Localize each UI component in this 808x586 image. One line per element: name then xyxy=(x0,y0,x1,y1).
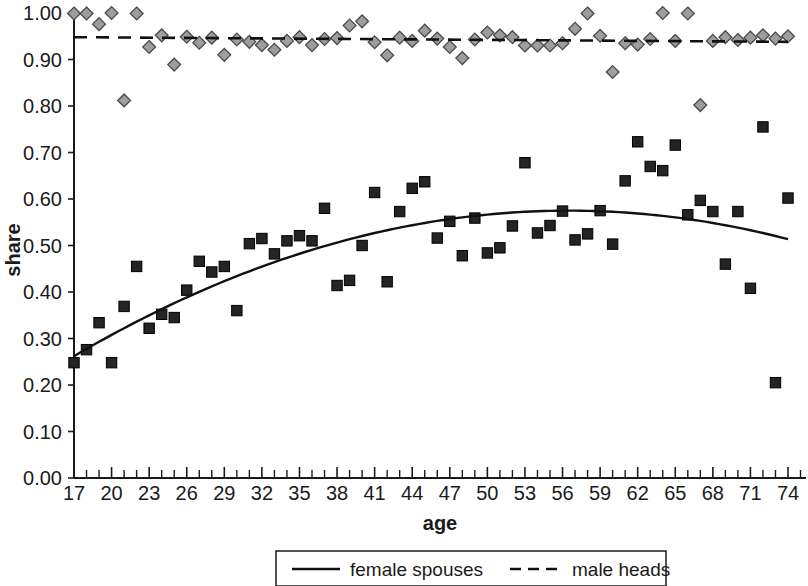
data-point-square xyxy=(620,176,630,186)
data-point-diamond xyxy=(481,26,494,39)
data-point-square xyxy=(269,249,279,259)
data-point-square xyxy=(144,323,154,333)
y-tick-label: 0.80 xyxy=(23,95,62,117)
data-point-square xyxy=(632,137,642,147)
female-spouses-fit-curve xyxy=(74,211,788,357)
data-point-square xyxy=(745,283,755,293)
data-point-square xyxy=(131,261,141,271)
x-tick-label: 35 xyxy=(288,482,310,504)
x-axis-ticks xyxy=(74,467,801,478)
y-tick-label: 0.50 xyxy=(23,235,62,257)
data-point-square xyxy=(282,236,292,246)
data-point-square xyxy=(495,243,505,253)
x-tick-label: 47 xyxy=(439,482,461,504)
male-heads-data-points xyxy=(68,7,795,112)
data-point-diamond xyxy=(143,41,156,54)
data-point-square xyxy=(658,165,668,175)
data-point-square xyxy=(182,285,192,295)
legend-label-male-heads: male heads xyxy=(572,559,670,580)
scatter-plot-svg: 0.000.100.200.300.400.500.600.700.800.90… xyxy=(0,0,808,586)
data-point-diamond xyxy=(356,15,369,28)
y-tick-label: 0.90 xyxy=(23,49,62,71)
data-point-diamond xyxy=(381,49,394,62)
data-point-diamond xyxy=(306,39,319,52)
data-point-diamond xyxy=(118,94,131,107)
data-point-square xyxy=(69,357,79,367)
data-point-square xyxy=(219,261,229,271)
data-point-diamond xyxy=(418,24,431,37)
data-point-diamond xyxy=(255,39,268,52)
data-point-diamond xyxy=(619,37,632,50)
y-tick-label: 0.10 xyxy=(23,421,62,443)
data-point-square xyxy=(244,238,254,248)
data-point-diamond xyxy=(218,48,231,61)
data-point-diamond xyxy=(155,29,168,42)
x-tick-label: 59 xyxy=(589,482,611,504)
data-point-square xyxy=(394,206,404,216)
y-tick-label: 0.40 xyxy=(23,281,62,303)
data-point-diamond xyxy=(456,52,469,65)
data-point-square xyxy=(344,275,354,285)
y-axis-title: share xyxy=(2,223,24,276)
data-point-square xyxy=(695,195,705,205)
x-axis-tick-labels: 1720232629323538414447505356596265687174 xyxy=(63,482,799,504)
data-point-diamond xyxy=(93,18,106,31)
data-point-diamond xyxy=(168,58,181,71)
x-tick-label: 26 xyxy=(176,482,198,504)
data-point-square xyxy=(582,229,592,239)
chart-figure: 0.000.100.200.300.400.500.600.700.800.90… xyxy=(0,0,808,586)
data-point-diamond xyxy=(656,7,669,20)
data-point-diamond xyxy=(556,37,569,50)
data-point-square xyxy=(194,256,204,266)
y-tick-label: 0.60 xyxy=(23,188,62,210)
x-tick-label: 62 xyxy=(627,482,649,504)
y-tick-label: 1.00 xyxy=(23,2,62,24)
data-point-square xyxy=(532,228,542,238)
data-point-diamond xyxy=(569,22,582,35)
legend: female spouses male heads xyxy=(276,551,670,586)
data-point-diamond xyxy=(731,34,744,47)
data-point-square xyxy=(332,280,342,290)
data-point-square xyxy=(94,317,104,327)
data-point-square xyxy=(207,267,217,277)
data-point-square xyxy=(420,177,430,187)
data-point-square xyxy=(357,240,367,250)
data-point-square xyxy=(169,312,179,322)
y-axis-tick-labels: 0.000.100.200.300.400.500.600.700.800.90… xyxy=(23,2,62,489)
data-point-diamond xyxy=(68,7,81,20)
data-point-diamond xyxy=(644,33,657,46)
data-point-diamond xyxy=(268,43,281,56)
y-tick-label: 0.70 xyxy=(23,142,62,164)
x-tick-label: 68 xyxy=(702,482,724,504)
data-point-diamond xyxy=(506,31,519,44)
data-point-square xyxy=(369,187,379,197)
data-point-diamond xyxy=(581,7,594,20)
data-point-square xyxy=(257,233,267,243)
data-point-square xyxy=(106,357,116,367)
data-point-diamond xyxy=(80,7,93,20)
data-point-diamond xyxy=(694,99,707,112)
x-tick-label: 32 xyxy=(251,482,273,504)
data-point-diamond xyxy=(606,66,619,79)
data-point-square xyxy=(645,161,655,171)
legend-label-female-spouses: female spouses xyxy=(350,559,483,580)
y-tick-label: 0.00 xyxy=(23,467,62,489)
female-spouses-data-points xyxy=(69,122,793,388)
data-point-square xyxy=(507,221,517,231)
data-point-diamond xyxy=(343,19,356,32)
x-tick-label: 20 xyxy=(100,482,122,504)
data-point-square xyxy=(407,183,417,193)
data-point-square xyxy=(670,140,680,150)
data-point-diamond xyxy=(293,31,306,44)
y-tick-label: 0.30 xyxy=(23,328,62,350)
y-tick-label: 0.20 xyxy=(23,374,62,396)
data-point-square xyxy=(482,248,492,258)
data-point-square xyxy=(307,236,317,246)
data-point-square xyxy=(720,259,730,269)
data-point-diamond xyxy=(757,29,770,42)
x-tick-label: 56 xyxy=(551,482,573,504)
data-point-diamond xyxy=(681,7,694,20)
data-point-square xyxy=(733,206,743,216)
data-point-square xyxy=(432,233,442,243)
data-point-diamond xyxy=(281,35,294,48)
